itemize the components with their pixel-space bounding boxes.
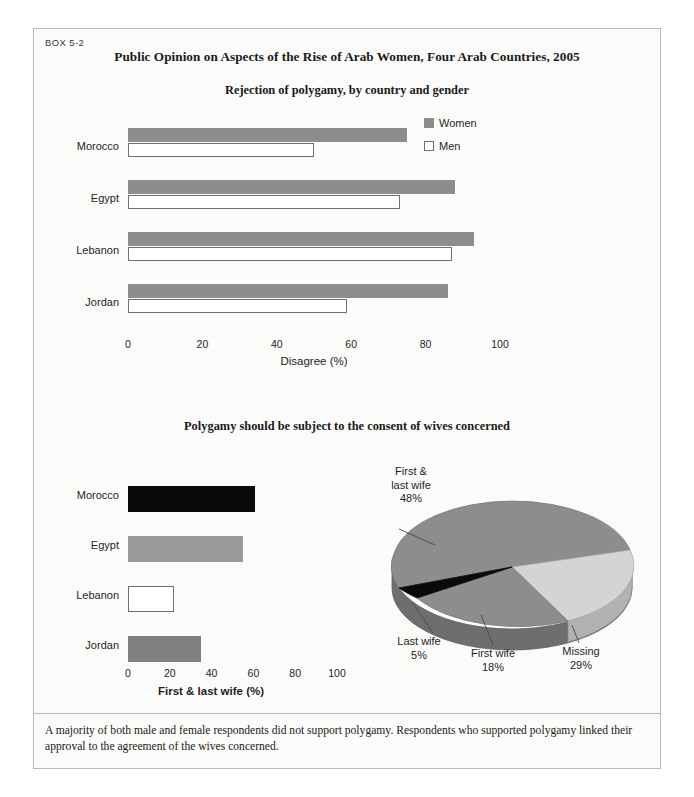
chart1-xtick-100: 100 — [491, 338, 509, 350]
pie-label-missing-line1: Missing — [541, 645, 621, 659]
chart2-title: Polygamy should be subject to the consen… — [45, 419, 649, 434]
chart1-ylabel-jordan: Jordan — [45, 296, 119, 308]
chart1-legend-item-women: Women — [424, 117, 544, 129]
chart1-bar-jordan-women — [128, 284, 448, 298]
chart2-ylabel-egypt: Egypt — [45, 539, 119, 551]
pie-label-first-wife: First wife 18% — [447, 647, 539, 674]
chart2-bar-morocco — [128, 486, 255, 512]
chart1-legend: Women Men — [424, 117, 544, 163]
chart2-consent-of-wives: Morocco Egypt Lebanon Jordan 0 20 40 60 … — [45, 455, 345, 715]
chart2-ylabel-jordan: Jordan — [45, 639, 119, 651]
chart1-bar-egypt-men — [128, 195, 400, 209]
pie-label-first-and-last-wife-pct: 48% — [363, 492, 459, 506]
box-number-label: BOX 5-2 — [45, 37, 84, 48]
chart1-xtick-0: 0 — [125, 338, 131, 350]
chart2-ylabel-morocco: Morocco — [45, 489, 119, 501]
chart1-rejection-of-polygamy: Morocco Egypt Lebanon Jordan 0 20 40 60 … — [45, 110, 649, 362]
chart2-ylabel-lebanon: Lebanon — [45, 589, 119, 601]
chart1-bar-morocco-women — [128, 128, 407, 142]
chart1-bar-lebanon-men — [128, 247, 452, 261]
chart1-legend-label-men: Men — [439, 140, 460, 152]
chart2-xtick-0: 0 — [125, 667, 131, 679]
chart1-x-axis-label: Disagree (%) — [128, 355, 500, 367]
chart2-bar-lebanon — [128, 586, 174, 612]
chart1-bar-lebanon-women — [128, 232, 474, 246]
pie-label-first-and-last-wife-line2: last wife — [363, 479, 459, 493]
legend-swatch-women-icon — [424, 118, 434, 128]
chart2-xtick-20: 20 — [164, 667, 176, 679]
chart1-ylabel-lebanon: Lebanon — [45, 244, 119, 256]
pie-chart-polygamy-consent: First & last wife 48% Last wife 5% First… — [355, 455, 655, 695]
chart1-bar-jordan-men — [128, 299, 347, 313]
pie-label-missing: Missing 29% — [541, 645, 621, 672]
chart2-xtick-60: 60 — [248, 667, 260, 679]
legend-swatch-men-icon — [424, 141, 434, 151]
chart1-xtick-60: 60 — [345, 338, 357, 350]
pie-label-first-and-last-wife-line1: First & — [363, 465, 459, 479]
box-footnote: A majority of both male and female respo… — [45, 723, 649, 754]
chart2-xtick-40: 40 — [206, 667, 218, 679]
chart2-xtick-100: 100 — [328, 667, 346, 679]
chart1-legend-label-women: Women — [439, 117, 477, 129]
chart1-x-tick-labels: 0 20 40 60 80 100 — [128, 338, 500, 354]
footer-divider — [34, 713, 660, 714]
chart1-title: Rejection of polygamy, by country and ge… — [45, 83, 649, 98]
chart2-xtick-80: 80 — [289, 667, 301, 679]
chart2-bar-jordan — [128, 636, 201, 662]
chart2-x-tick-labels: 0 20 40 60 80 100 — [128, 667, 337, 683]
pie-label-missing-pct: 29% — [541, 659, 621, 673]
chart1-ylabel-egypt: Egypt — [45, 192, 119, 204]
chart1-bar-morocco-men — [128, 143, 314, 157]
box-title: Public Opinion on Aspects of the Rise of… — [45, 49, 649, 65]
pie-label-first-wife-line1: First wife — [447, 647, 539, 661]
chart1-xtick-80: 80 — [420, 338, 432, 350]
chart1-legend-item-men: Men — [424, 140, 544, 152]
chart2-x-axis-label: First & last wife (%) — [85, 685, 337, 697]
pie-top-face — [391, 501, 634, 627]
chart1-ylabel-morocco: Morocco — [45, 140, 119, 152]
chart1-bar-egypt-women — [128, 180, 455, 194]
chart1-xtick-20: 20 — [197, 338, 209, 350]
box-page: BOX 5-2 Public Opinion on Aspects of the… — [0, 0, 694, 797]
chart2-plot-area — [128, 465, 337, 660]
chart2-bar-egypt — [128, 536, 243, 562]
chart1-xtick-40: 40 — [271, 338, 283, 350]
pie-label-first-wife-pct: 18% — [447, 661, 539, 675]
pie-label-first-and-last-wife: First & last wife 48% — [363, 465, 459, 506]
